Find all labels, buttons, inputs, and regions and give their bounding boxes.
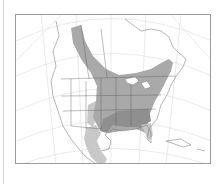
range-map [15,14,211,164]
species-range [71,25,173,163]
map-canvas [16,15,211,164]
page-left-rule [3,0,4,184]
